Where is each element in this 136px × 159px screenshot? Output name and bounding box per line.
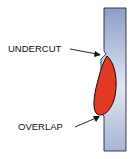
overlap-arrow-icon xyxy=(75,116,100,127)
weld-defect-diagram: UNDERCUT OVERLAP xyxy=(0,0,136,159)
undercut-arrow-icon xyxy=(70,49,101,57)
undercut-label: UNDERCUT xyxy=(8,43,62,54)
overlap-label: OVERLAP xyxy=(18,121,63,132)
